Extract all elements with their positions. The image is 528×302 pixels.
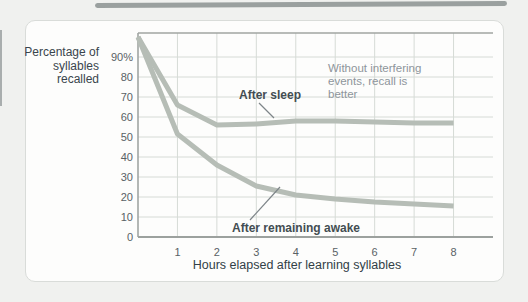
y-tick-label: 40 <box>121 151 133 163</box>
y-tick-label: 80 <box>121 71 133 83</box>
y-tick-label: 30 <box>121 171 133 183</box>
x-tick-label: 1 <box>174 246 180 258</box>
series-label-after-remaining-awake: After remaining awake <box>232 221 360 235</box>
x-axis-title: Hours elapsed after learning syllables <box>142 258 452 272</box>
x-tick-label: 4 <box>293 246 299 258</box>
y-axis-title: Percentage of syllables recalled <box>13 46 99 87</box>
y-tick-label: 60 <box>121 111 133 123</box>
y-tick-label: 90% <box>111 51 133 63</box>
series-label-after-sleep: After sleep <box>239 88 301 102</box>
x-tick-label: 5 <box>332 246 338 258</box>
y-tick-label: 20 <box>121 191 133 203</box>
y-tick-label: 70 <box>121 91 133 103</box>
after-remaining-awake-leader-line <box>250 187 280 220</box>
annotation-text: Without interfering events, recall is be… <box>328 62 425 101</box>
x-tick-label: 8 <box>450 246 456 258</box>
y-tick-label: 0 <box>127 231 133 243</box>
y-tick-label: 10 <box>121 211 133 223</box>
x-tick-label: 6 <box>372 246 378 258</box>
after-sleep-leader-line <box>259 103 274 118</box>
x-tick-label: 2 <box>214 246 220 258</box>
x-tick-label: 3 <box>253 246 259 258</box>
y-tick-label: 50 <box>121 131 133 143</box>
x-tick-label: 7 <box>411 246 417 258</box>
